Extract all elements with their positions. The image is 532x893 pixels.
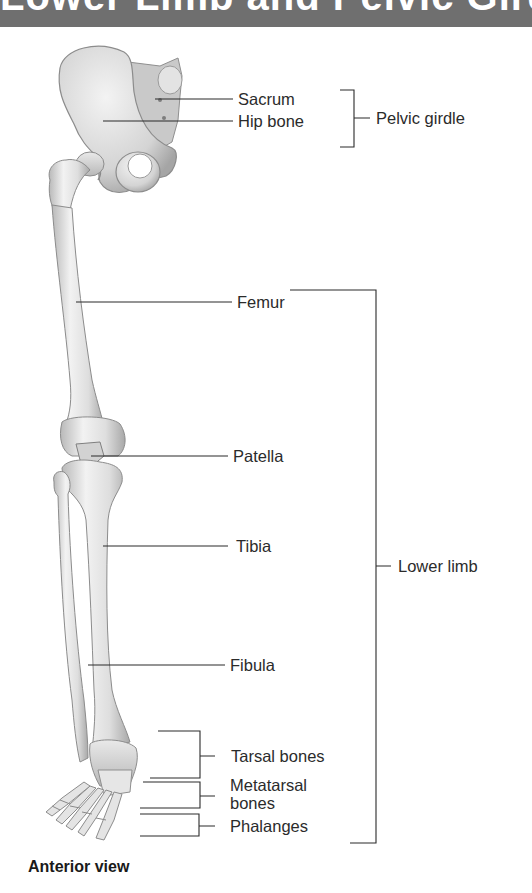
femur-bone: [49, 152, 125, 456]
label-phalanges: Phalanges: [230, 817, 308, 835]
label-fibula: Fibula: [230, 656, 275, 674]
pelvic-girdle-bracket: [340, 90, 370, 147]
label-tibia: Tibia: [236, 537, 271, 555]
metatarsal-bracket: [140, 782, 215, 808]
fibula-bone: [54, 471, 88, 762]
foot-bones: [46, 740, 137, 840]
label-tarsal-bones: Tarsal bones: [231, 747, 325, 765]
figure-caption: Anterior view: [28, 858, 129, 876]
tarsal-bracket: [150, 731, 215, 778]
label-femur: Femur: [237, 293, 285, 311]
label-patella: Patella: [233, 447, 283, 465]
label-metatarsal-bones-line1: Metatarsal: [230, 776, 307, 794]
label-hip-bone: Hip bone: [238, 112, 304, 130]
label-sacrum: Sacrum: [238, 90, 295, 108]
label-pelvic-girdle: Pelvic girdle: [376, 109, 465, 127]
phalanges-bracket: [140, 814, 215, 836]
label-metatarsal-bones-line2: bones: [230, 794, 275, 812]
label-lower-limb: Lower limb: [398, 557, 478, 575]
